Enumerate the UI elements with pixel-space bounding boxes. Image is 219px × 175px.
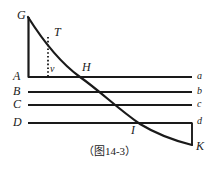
label-point-h: H (82, 61, 91, 73)
label-point-c-right: c (197, 99, 201, 109)
label-point-a-right: a (197, 71, 202, 81)
label-point-d-left: D (13, 116, 22, 128)
label-point-b-left: B (13, 85, 20, 97)
figure-caption: （图14-3） (0, 142, 219, 158)
label-velocity-v: v (50, 64, 54, 74)
label-point-c-left: C (13, 98, 21, 110)
label-point-b-right: b (197, 86, 202, 96)
curve-g-h-i-k (28, 17, 192, 145)
label-point-g: G (17, 9, 26, 21)
figure-14-3: G T v H I K A B C D a b c d （图14-3） (0, 0, 219, 175)
label-point-t: T (54, 26, 61, 38)
label-point-d-right: d (197, 116, 202, 126)
label-point-a-left: A (13, 70, 20, 82)
label-point-i: I (131, 124, 135, 136)
